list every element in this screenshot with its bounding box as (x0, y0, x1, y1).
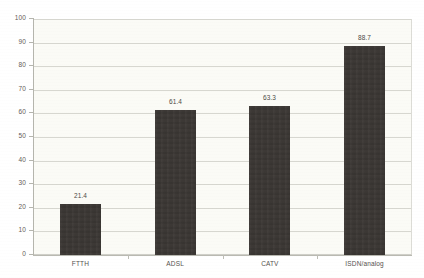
gridline-90 (34, 43, 411, 44)
x-axis-category-label: ADSL (128, 261, 223, 268)
bar-catv (249, 106, 290, 255)
bar-ftth (60, 204, 101, 255)
y-axis-tick-label: 0 (22, 251, 26, 258)
bar-value-label: 63.3 (229, 95, 310, 102)
bar-value-label: 61.4 (135, 99, 216, 106)
bar-isdn-analog (344, 46, 385, 255)
bar-value-label: 21.4 (40, 193, 121, 200)
y-axis-tick-label: 30 (19, 180, 26, 187)
y-axis-tick-label: 90 (19, 39, 26, 46)
y-axis-tick (29, 112, 34, 113)
y-axis-tick (29, 89, 34, 90)
x-axis-category-label: ISDN/analog (317, 261, 412, 268)
y-axis-tick-label: 50 (19, 133, 26, 140)
y-axis-tick-label: 40 (19, 157, 26, 164)
y-axis-tick (29, 136, 34, 137)
y-axis-tick-label: 10 (19, 227, 26, 234)
y-axis-tick-label: 100 (15, 15, 26, 22)
y-axis-tick-label: 60 (19, 109, 26, 116)
y-axis-tick-label: 80 (19, 62, 26, 69)
x-axis-tick (128, 255, 129, 259)
y-axis-tick (29, 183, 34, 184)
x-axis-tick (223, 255, 224, 259)
bar-chart: 0102030405060708090100 FTTHADSLCATVISDN/… (0, 0, 424, 278)
x-axis-tick (317, 255, 318, 259)
bar-adsl (155, 110, 196, 255)
y-axis-tick (29, 230, 34, 231)
y-axis-tick (29, 18, 34, 19)
y-axis-line (33, 19, 34, 256)
x-axis-category-label: CATV (223, 261, 318, 268)
y-axis-tick (29, 160, 34, 161)
gridline-100 (34, 19, 411, 20)
y-axis-tick (29, 42, 34, 43)
y-axis-tick (29, 207, 34, 208)
y-axis-tick-label: 20 (19, 204, 26, 211)
y-axis-tick-label: 70 (19, 86, 26, 93)
x-axis-category-label: FTTH (33, 261, 128, 268)
bar-value-label: 88.7 (324, 35, 405, 42)
y-axis-tick (29, 65, 34, 66)
y-axis-tick (29, 254, 34, 255)
